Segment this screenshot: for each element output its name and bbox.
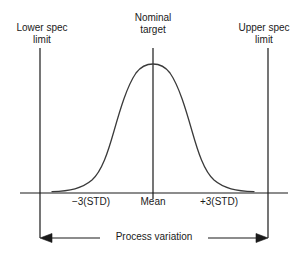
plus-three-std-tick-label: +3(STD) [188, 196, 250, 207]
nominal-target-label: Nominal target [113, 12, 193, 35]
lower-spec-limit-label: Lower spec limit [4, 22, 80, 45]
minus-three-std-tick-label: −3(STD) [60, 196, 122, 207]
process-variation-label: Process variation [100, 231, 208, 242]
process-capability-diagram: Lower spec limit Nominal target Upper sp… [0, 0, 308, 256]
upper-spec-limit-label: Upper spec limit [224, 22, 304, 45]
mean-tick-label: Mean [126, 196, 180, 207]
process-variation-arrow-right-head [256, 234, 268, 243]
